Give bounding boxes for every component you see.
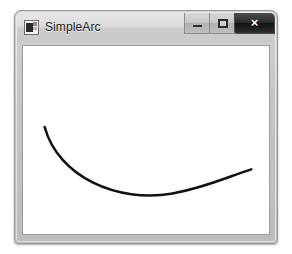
app-icon-block: [26, 23, 33, 32]
application-window: SimpleArc ×: [14, 10, 278, 244]
screen-root: SimpleArc ×: [0, 0, 292, 254]
arc-shape: [45, 127, 252, 196]
title-bar[interactable]: SimpleArc ×: [17, 13, 275, 42]
close-button[interactable]: ×: [234, 13, 275, 34]
application-icon: [24, 20, 39, 35]
close-icon: ×: [235, 13, 274, 33]
window-title: SimpleArc: [45, 19, 101, 36]
minimize-button[interactable]: [184, 13, 210, 34]
caption-button-group: ×: [185, 13, 275, 34]
minimize-icon: [193, 25, 202, 27]
client-area: [22, 45, 270, 235]
arc-canvas: [23, 46, 269, 234]
app-icon-square-top: [33, 22, 37, 26]
app-icon-square-bottom: [33, 27, 37, 30]
maximize-button[interactable]: [209, 13, 235, 34]
maximize-icon: [218, 19, 228, 28]
